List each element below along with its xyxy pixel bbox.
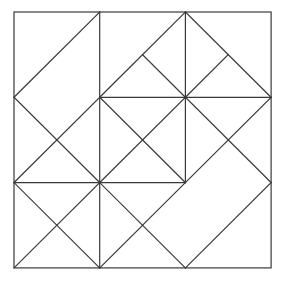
diagram-svg	[0, 0, 285, 282]
dissection-line	[14, 12, 100, 97]
dissected-square-diagram	[0, 0, 285, 282]
dissection-line	[185, 55, 228, 98]
dissection-lines	[14, 12, 271, 268]
dissection-line	[143, 55, 186, 98]
dissection-line	[143, 97, 272, 225]
dissection-line	[185, 183, 271, 268]
dissection-line	[100, 225, 143, 268]
